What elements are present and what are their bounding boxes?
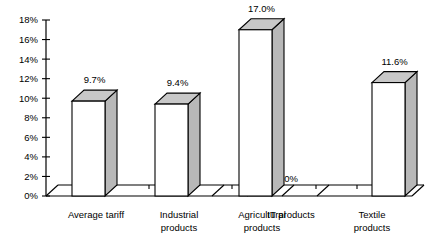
bar-value-label: 9.7% xyxy=(84,74,106,85)
bar-value-label: 9.4% xyxy=(167,77,189,88)
category-label: Industrial xyxy=(160,209,199,220)
y-axis-tick-label: 10% xyxy=(19,93,39,104)
y-axis-tick-label: 0% xyxy=(24,190,38,201)
floor-separator xyxy=(282,185,294,196)
category-labels-layer: Average tariffIndustrialproductsAgricult… xyxy=(68,209,391,233)
bar-value-label: 11.6% xyxy=(381,56,408,67)
bar-column xyxy=(72,90,117,196)
y-axis-tick-label: 8% xyxy=(24,112,38,123)
y-axis-tick-label: 12% xyxy=(19,73,39,84)
bar-front-face xyxy=(372,83,405,196)
bar-column xyxy=(372,72,417,196)
bar-front-face xyxy=(155,104,188,196)
chart-container: 0%2%4%6%8%10%12%14%16%18% 9.7%9.4%17.0%0… xyxy=(0,0,427,246)
floor-separator xyxy=(317,185,329,196)
bar-value-label: 17.0% xyxy=(248,3,275,14)
bars-layer xyxy=(72,19,417,196)
bar-column xyxy=(239,19,284,196)
category-label: Textile xyxy=(359,209,386,220)
bar-side-face xyxy=(105,90,117,196)
y-axis: 0%2%4%6%8%10%12%14%16%18% xyxy=(19,14,50,201)
bar-side-face xyxy=(405,72,417,196)
bar-side-face xyxy=(188,93,200,196)
bar-side-face xyxy=(272,19,284,196)
floor-separator xyxy=(212,185,224,196)
y-axis-tick-label: 4% xyxy=(24,151,38,162)
y-axis-tick-label: 16% xyxy=(19,34,39,45)
floor-left-edge xyxy=(46,185,58,196)
bar-chart: 0%2%4%6%8%10%12%14%16%18% 9.7%9.4%17.0%0… xyxy=(0,0,427,246)
category-label: products xyxy=(161,222,198,233)
category-label: products xyxy=(354,222,391,233)
bar-front-face xyxy=(239,30,272,196)
y-axis-tick-label: 6% xyxy=(24,132,38,143)
bar-value-label: 0% xyxy=(284,173,298,184)
bar-front-face xyxy=(72,101,105,196)
bar-column xyxy=(155,93,200,196)
y-axis-tick-label: 2% xyxy=(24,171,38,182)
y-axis-tick-label: 14% xyxy=(19,54,39,65)
category-label: IT products xyxy=(267,209,315,220)
y-axis-tick-label: 18% xyxy=(19,14,39,25)
category-label: Average tariff xyxy=(68,209,125,220)
category-label: products xyxy=(244,222,281,233)
